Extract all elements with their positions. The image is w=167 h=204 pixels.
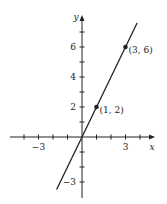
x-tick-label: −3 bbox=[32, 142, 46, 152]
y-tick-label: 4 bbox=[70, 72, 76, 82]
x-tick-label: 3 bbox=[123, 142, 129, 152]
x-axis-label: x bbox=[149, 142, 154, 152]
y-axis-arrow-icon bbox=[80, 15, 85, 21]
data-points: (1, 2)(3, 6) bbox=[94, 45, 153, 115]
data-point-label: (1, 2) bbox=[100, 105, 124, 115]
tick-labels: −33246−3xy bbox=[32, 12, 155, 187]
data-point-marker bbox=[94, 105, 99, 110]
data-point-label: (3, 6) bbox=[129, 45, 153, 55]
y-axis-label: y bbox=[72, 12, 79, 22]
y-tick-label: −3 bbox=[63, 177, 77, 187]
line-graph: −33246−3xy (1, 2)(3, 6) bbox=[0, 0, 167, 204]
data-point-marker bbox=[123, 45, 128, 50]
y-tick-label: 2 bbox=[70, 102, 76, 112]
x-axis-arrow-icon bbox=[149, 135, 155, 140]
y-tick-label: 6 bbox=[70, 42, 76, 52]
